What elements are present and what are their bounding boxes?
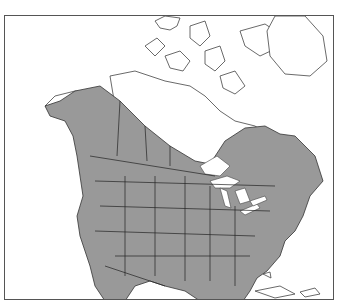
map-title: North America range map <box>0 0 1 1</box>
range-map <box>5 16 334 300</box>
caribbean-islands <box>255 272 320 298</box>
map-frame <box>4 15 334 300</box>
